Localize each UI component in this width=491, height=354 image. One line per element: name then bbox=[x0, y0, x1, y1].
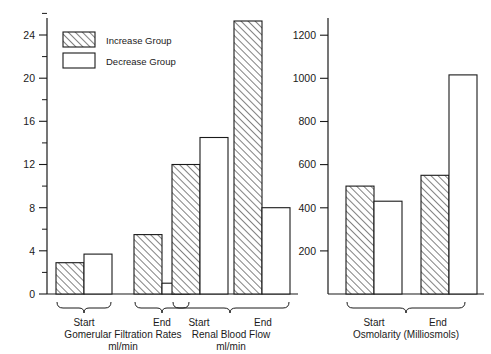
panel-title-rbf: Renal Blood Flow bbox=[192, 329, 271, 340]
panel-renal-blood-flow-bars bbox=[172, 21, 290, 294]
panel-osm-axis-labels: Start End Osmolarity (Milliosmols) bbox=[347, 302, 465, 340]
panel-gfr-axis-labels: Start End Gomerular Filtration Rates ml/… bbox=[57, 302, 189, 352]
group-label-rbf-end: End bbox=[254, 317, 272, 328]
bar-osm-end-decrease bbox=[449, 75, 477, 294]
group-label-osm-start: Start bbox=[363, 317, 384, 328]
y-tick-label-200: 200 bbox=[298, 245, 316, 257]
bar-rbf-start-increase bbox=[172, 165, 200, 295]
panel-title-gfr: Gomerular Filtration Rates bbox=[64, 329, 181, 340]
bar-gfr-end-increase bbox=[134, 235, 162, 294]
y-tick-label-1200: 1200 bbox=[293, 29, 317, 41]
group-label-gfr-end: End bbox=[153, 317, 171, 328]
group-label-gfr-start: Start bbox=[73, 317, 94, 328]
chart-svg: 24 20 16 12 8 4 0 Increase Group Decreas… bbox=[0, 0, 491, 354]
legend-swatch-increase bbox=[63, 32, 95, 47]
panel-title-osm: Osmolarity (Milliosmols) bbox=[353, 329, 459, 340]
y-tick-label-400: 400 bbox=[298, 202, 316, 214]
bar-rbf-end-increase bbox=[234, 21, 262, 294]
bar-osm-start-increase bbox=[346, 186, 374, 294]
y-tick-label-24: 24 bbox=[23, 29, 35, 41]
bar-rbf-start-decrease bbox=[200, 138, 228, 295]
legend-swatch-decrease bbox=[63, 53, 95, 68]
panel-units-gfr: ml/min bbox=[108, 341, 137, 352]
group-label-rbf-start: Start bbox=[188, 317, 209, 328]
legend-label-decrease: Decrease Group bbox=[106, 56, 176, 67]
legend-label-increase: Increase Group bbox=[106, 35, 171, 46]
bar-osm-end-increase bbox=[421, 175, 449, 294]
bar-gfr-start-increase bbox=[56, 263, 84, 294]
bar-osm-start-decrease bbox=[374, 201, 402, 294]
y-tick-label-0: 0 bbox=[29, 288, 35, 300]
bar-chart-figure: 24 20 16 12 8 4 0 Increase Group Decreas… bbox=[0, 0, 491, 354]
y-tick-label-600: 600 bbox=[298, 158, 316, 170]
legend: Increase Group Decrease Group bbox=[63, 32, 176, 68]
group-label-osm-end: End bbox=[429, 317, 447, 328]
y-tick-label-4: 4 bbox=[29, 245, 35, 257]
y-tick-label-8: 8 bbox=[29, 202, 35, 214]
panel-units-rbf: ml/min bbox=[216, 341, 245, 352]
panel-gomerular-filtration-rates-bars bbox=[56, 235, 190, 294]
y-tick-label-12: 12 bbox=[23, 158, 35, 170]
panel-rbf-axis-labels: Start End Renal Blood Flow ml/min bbox=[173, 302, 289, 352]
bar-gfr-start-decrease bbox=[84, 254, 112, 294]
y-tick-label-1000: 1000 bbox=[293, 72, 317, 84]
panel-osmolarity-bars bbox=[346, 75, 477, 294]
y-tick-label-20: 20 bbox=[23, 72, 35, 84]
y-tick-label-800: 800 bbox=[298, 115, 316, 127]
y-tick-label-16: 16 bbox=[23, 115, 35, 127]
bar-rbf-end-decrease bbox=[262, 208, 290, 294]
